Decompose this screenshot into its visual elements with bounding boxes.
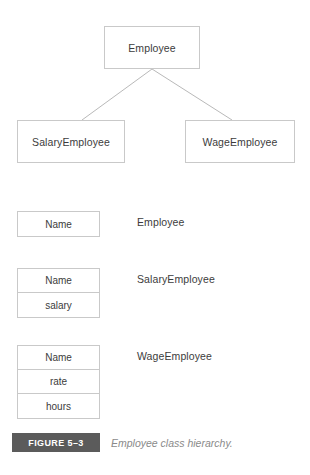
class-box-wageemployee-label: WageEmployee <box>203 136 278 148</box>
attribute-table-wageemployee-caption: WageEmployee <box>137 350 212 362</box>
attribute-table-employee: Name <box>17 211 100 237</box>
figure-caption: FIGURE 5–3 Employee class hierarchy. <box>12 433 233 452</box>
attribute-row: salary <box>18 293 99 317</box>
attribute-table-employee-caption: Employee <box>137 216 185 228</box>
attribute-table-salaryemployee: Name salary <box>17 268 100 318</box>
class-box-employee: Employee <box>104 26 200 69</box>
connector-employee-to-salaryemployee <box>82 69 152 120</box>
class-box-salaryemployee: SalaryEmployee <box>17 120 125 163</box>
class-box-employee-label: Employee <box>128 42 176 54</box>
connector-employee-to-wageemployee <box>152 69 232 120</box>
attribute-row: hours <box>18 394 99 418</box>
attribute-row: Name <box>18 269 99 293</box>
figure-caption-text: Employee class hierarchy. <box>111 437 233 449</box>
attribute-row: Name <box>18 346 99 370</box>
class-box-wageemployee: WageEmployee <box>185 120 295 163</box>
class-box-salaryemployee-label: SalaryEmployee <box>32 136 110 148</box>
figure-5-3: Employee SalaryEmployee WageEmployee Nam… <box>0 0 310 475</box>
attribute-row: rate <box>18 370 99 394</box>
attribute-table-wageemployee: Name rate hours <box>17 345 100 419</box>
attribute-table-salaryemployee-caption: SalaryEmployee <box>137 273 215 285</box>
attribute-row: Name <box>18 212 99 236</box>
figure-number-badge: FIGURE 5–3 <box>12 433 100 452</box>
